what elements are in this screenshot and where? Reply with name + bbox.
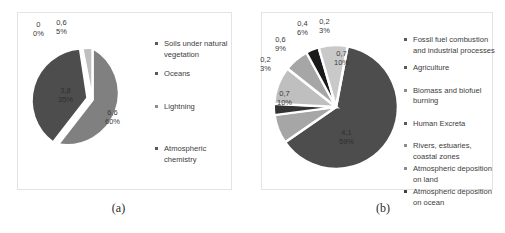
- legend-item-atmospheric-chemistry: Atmospheric chemistry: [155, 144, 237, 165]
- legend-label-lightning: Lightning: [164, 102, 237, 113]
- panel-a-caption: (a): [0, 201, 245, 216]
- pie-b-label-agriculture-value: 0,7: [279, 89, 289, 98]
- pie-a-label-soils-value: 6,6: [107, 108, 117, 117]
- pie-a-legend: Soils under natural vegetation Oceans Li…: [155, 39, 237, 165]
- legend-bullet-icon: [404, 144, 407, 147]
- pie-a-label-atmos-chem-value: 0,6: [56, 18, 66, 27]
- legend-bullet-icon: [404, 38, 407, 41]
- legend-item-atmos-dep-land: Atmospheric deposition on land: [404, 164, 496, 185]
- figure-panel-b: 0,4 6% 0,2 3% 0,6 9% 0,2 3% 0,7 10% 0,7: [253, 0, 505, 233]
- legend-label-atmospheric-chemistry: Atmospheric chemistry: [164, 144, 237, 165]
- legend-bullet-icon: [404, 167, 407, 170]
- legend-bullet-icon: [404, 66, 407, 69]
- pie-b-label-biomass: 0,7 10%: [334, 49, 349, 67]
- pie-b-label-atmos-dep-land-percent: 6%: [297, 28, 308, 37]
- pie-b-label-human-excreta: 0,2 3%: [260, 55, 271, 73]
- legend-bullet-icon: [404, 122, 407, 125]
- pie-a-label-atmos-chem: 0,6 5%: [56, 18, 67, 36]
- chart-panel-a: 0 0% 0,6 5% 3,8 35% 6,6 60% Soils under …: [17, 12, 232, 190]
- pie-b-label-atmos-dep-ocean-percent: 3%: [319, 26, 330, 35]
- pie-b-label-human-excreta-percent: 3%: [260, 64, 271, 73]
- legend-bullet-icon: [404, 89, 407, 92]
- legend-item-biomass: Biomass and biofuel burning: [404, 86, 496, 107]
- pie-b-label-fossil-fuel-value: 4,1: [341, 128, 351, 137]
- pie-a-label-soils-percent: 60%: [105, 117, 120, 126]
- pie-a-label-oceans: 3,8 35%: [58, 86, 73, 104]
- legend-item-lightning: Lightning: [155, 102, 237, 113]
- legend-item-rivers: Rivers, estuaries, coastal zones: [404, 141, 496, 162]
- legend-label-rivers: Rivers, estuaries, coastal zones: [413, 141, 496, 162]
- legend-item-human-excreta: Human Excreta: [404, 119, 496, 130]
- pie-a-label-oceans-value: 3,8: [60, 86, 70, 95]
- legend-label-oceans: Oceans: [164, 69, 237, 80]
- pie-a-label-lightning-value: 0: [36, 20, 40, 29]
- pie-a-label-lightning-percent: 0%: [33, 29, 44, 38]
- pie-b-label-rivers: 0,6 9%: [275, 35, 286, 53]
- chart-panel-b: 0,4 6% 0,2 3% 0,6 9% 0,2 3% 0,7 10% 0,7: [261, 12, 493, 190]
- legend-label-fossil-fuel: Fossil fuel combustion and industrial pr…: [413, 35, 496, 56]
- panel-b-caption: (b): [257, 201, 505, 216]
- legend-label-biomass: Biomass and biofuel burning: [413, 86, 496, 107]
- pie-b-label-fossil-fuel-percent: 59%: [339, 137, 354, 146]
- pie-b-label-rivers-percent: 9%: [275, 44, 286, 53]
- pie-b-label-atmos-dep-land-value: 0,4: [297, 19, 307, 28]
- figure-two-pie-charts: 0 0% 0,6 5% 3,8 35% 6,6 60% Soils under …: [0, 0, 505, 233]
- pie-b-label-atmos-dep-ocean-value: 0,2: [319, 17, 329, 26]
- pie-b-label-atmos-dep-land: 0,4 6%: [297, 19, 308, 37]
- legend-label-human-excreta: Human Excreta: [413, 119, 496, 130]
- legend-item-soils: Soils under natural vegetation: [155, 39, 237, 60]
- legend-item-fossil-fuel: Fossil fuel combustion and industrial pr…: [404, 35, 496, 56]
- pie-b-label-human-excreta-value: 0,2: [260, 55, 270, 64]
- legend-bullet-icon: [155, 105, 158, 108]
- legend-label-atmos-dep-land: Atmospheric deposition on land: [413, 164, 496, 185]
- legend-bullet-icon: [155, 42, 158, 45]
- pie-a-label-lightning: 0 0%: [33, 20, 44, 38]
- pie-b-label-rivers-value: 0,6: [275, 35, 285, 44]
- legend-bullet-icon: [404, 190, 407, 193]
- figure-panel-a: 0 0% 0,6 5% 3,8 35% 6,6 60% Soils under …: [0, 0, 253, 233]
- pie-a-label-soils: 6,6 60%: [105, 108, 120, 126]
- legend-item-agriculture: Agriculture: [404, 63, 496, 74]
- pie-b-label-agriculture-percent: 10%: [277, 98, 292, 107]
- pie-b-label-atmos-dep-ocean: 0,2 3%: [319, 17, 330, 35]
- pie-a-label-oceans-percent: 35%: [58, 95, 73, 104]
- pie-b-legend: Fossil fuel combustion and industrial pr…: [404, 35, 496, 208]
- legend-item-oceans: Oceans: [155, 69, 237, 80]
- legend-bullet-icon: [155, 147, 158, 150]
- pie-chart-a: [36, 43, 146, 158]
- pie-b-label-agriculture: 0,7 10%: [277, 89, 292, 107]
- legend-label-soils: Soils under natural vegetation: [164, 39, 237, 60]
- pie-a-svg: [36, 43, 146, 158]
- pie-b-label-biomass-value: 0,7: [336, 49, 346, 58]
- pie-a-label-atmos-chem-percent: 5%: [56, 27, 67, 36]
- pie-b-label-fossil-fuel: 4,1 59%: [339, 128, 354, 146]
- pie-b-label-biomass-percent: 10%: [334, 58, 349, 67]
- legend-label-agriculture: Agriculture: [413, 63, 496, 74]
- legend-bullet-icon: [155, 72, 158, 75]
